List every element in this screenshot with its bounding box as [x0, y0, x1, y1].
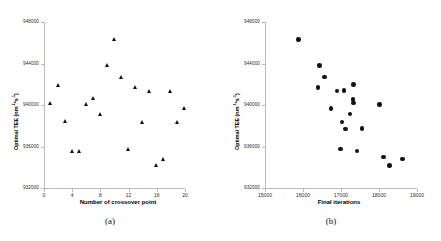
- y-tick-label: 936000: [221, 144, 260, 149]
- data-point: [168, 89, 172, 93]
- plot-area-b: 932000936000940000944000948000 150001600…: [221, 0, 441, 210]
- data-point: [154, 163, 158, 167]
- data-point: [161, 157, 165, 161]
- data-point: [335, 89, 340, 94]
- data-point: [387, 163, 392, 168]
- x-tick-label: 17000: [321, 192, 361, 198]
- y-tick-label: 944000: [221, 61, 260, 66]
- panel-b: 932000936000940000944000948000 150001600…: [221, 0, 441, 241]
- y-tick-label: 948000: [221, 19, 260, 24]
- x-tick-label: 19000: [397, 192, 437, 198]
- data-point: [77, 149, 81, 153]
- data-point: [340, 120, 345, 125]
- data-point: [322, 75, 327, 80]
- data-point: [119, 75, 123, 79]
- data-point: [182, 106, 186, 110]
- data-point: [105, 63, 109, 67]
- data-point: [351, 101, 356, 106]
- y-tick-mark: [262, 147, 265, 148]
- data-point: [126, 147, 130, 151]
- x-axis-title-a: Number of crossover point: [8, 199, 228, 205]
- y-tick-mark: [41, 105, 44, 106]
- data-point: [329, 106, 334, 111]
- subfigure-caption-b: (b): [221, 216, 441, 226]
- data-point: [296, 37, 301, 42]
- data-point: [98, 112, 102, 116]
- data-point: [316, 85, 321, 90]
- data-point: [348, 112, 353, 117]
- x-tick-label: 18000: [359, 192, 399, 198]
- data-point: [351, 82, 356, 87]
- data-point: [360, 126, 365, 131]
- data-point: [377, 102, 382, 107]
- data-point: [63, 119, 67, 123]
- data-point: [381, 155, 386, 160]
- data-point: [91, 96, 95, 100]
- data-point: [338, 147, 343, 152]
- x-axis-title-b: Final iterations: [229, 199, 441, 205]
- y-axis-line-b: [265, 22, 266, 188]
- data-point: [140, 120, 144, 124]
- panel-a: 932000936000940000944000948000 048121620…: [0, 0, 220, 241]
- x-tick-label: 20: [165, 192, 205, 198]
- y-tick-label: 936000: [0, 144, 39, 149]
- y-axis-title-a: Optimal TEE (nm-1*s-1): [13, 93, 19, 150]
- y-tick-label: 940000: [0, 102, 39, 107]
- y-tick-label: 932000: [221, 185, 260, 190]
- y-tick-mark: [41, 22, 44, 23]
- y-tick-label: 948000: [0, 19, 39, 24]
- data-point: [343, 127, 348, 132]
- subfigure-caption-a: (a): [0, 216, 220, 226]
- x-axis-line-a: [44, 188, 185, 189]
- y-tick-mark: [41, 64, 44, 65]
- y-tick-mark: [41, 147, 44, 148]
- data-point: [175, 120, 179, 124]
- y-tick-label: 932000: [0, 185, 39, 190]
- y-tick-mark: [262, 105, 265, 106]
- data-point: [342, 88, 347, 93]
- data-point: [355, 149, 360, 154]
- y-tick-mark: [262, 22, 265, 23]
- data-point: [133, 85, 137, 89]
- data-point: [48, 101, 52, 105]
- x-tick-label: 16000: [283, 192, 323, 198]
- y-tick-label: 944000: [0, 61, 39, 66]
- data-point: [70, 149, 74, 153]
- y-axis-title-b: Optimal TEE (nm-1*s-1): [234, 93, 240, 150]
- y-tick-label: 940000: [221, 102, 260, 107]
- x-tick-label: 15000: [245, 192, 285, 198]
- figure-container: 932000936000940000944000948000 048121620…: [0, 0, 441, 241]
- data-point: [147, 89, 151, 93]
- data-point: [84, 102, 88, 106]
- y-axis-line-a: [44, 22, 45, 188]
- plot-area-a: 932000936000940000944000948000 048121620…: [0, 0, 220, 210]
- data-point: [112, 37, 116, 41]
- data-point: [317, 63, 322, 68]
- y-tick-mark: [262, 64, 265, 65]
- data-point: [56, 83, 60, 87]
- data-point: [400, 157, 405, 162]
